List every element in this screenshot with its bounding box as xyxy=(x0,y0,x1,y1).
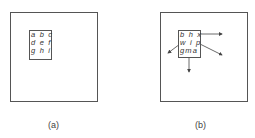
panel-b-letter-box: b h x w i p gma xyxy=(178,30,201,58)
panel-b-caption: (b) xyxy=(195,120,206,130)
panel-b-arrows xyxy=(0,0,255,138)
arrow-lower-right-icon xyxy=(200,44,222,55)
panel-b-row-3: gma xyxy=(179,47,200,55)
